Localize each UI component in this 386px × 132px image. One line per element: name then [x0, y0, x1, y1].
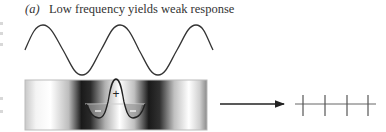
spike-train-response [295, 95, 376, 116]
center-sign: + [112, 87, 119, 101]
stimulus-sine-wave [25, 25, 213, 75]
diagram-canvas: + [0, 0, 386, 132]
